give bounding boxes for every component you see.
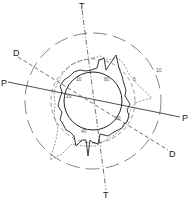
angle-label-10: 10 <box>76 76 82 82</box>
axis-D <box>18 57 168 150</box>
label-middle-circle: 5 <box>133 76 136 82</box>
angle-label-40: 40 <box>81 128 87 134</box>
label-outer-circle: 10 <box>156 67 162 73</box>
label-T-top: T <box>79 1 85 11</box>
label-D-right: D <box>169 149 176 159</box>
angle-label-60: 60 <box>115 115 121 121</box>
solid-profile <box>58 55 130 156</box>
label-D-left: D <box>13 48 20 58</box>
inner-circle <box>64 72 122 130</box>
label-P-right: P <box>182 113 188 123</box>
label-T-bottom: T <box>103 190 109 200</box>
angle-label-80: 80 <box>104 76 110 82</box>
angle-label-20: 20 <box>66 93 72 99</box>
axis-T <box>82 10 106 190</box>
polar-diagram: T T P P D D 10 5 10 80 20 60 40 <box>0 0 192 200</box>
label-P-left: P <box>1 78 7 88</box>
axis-P <box>8 82 180 117</box>
